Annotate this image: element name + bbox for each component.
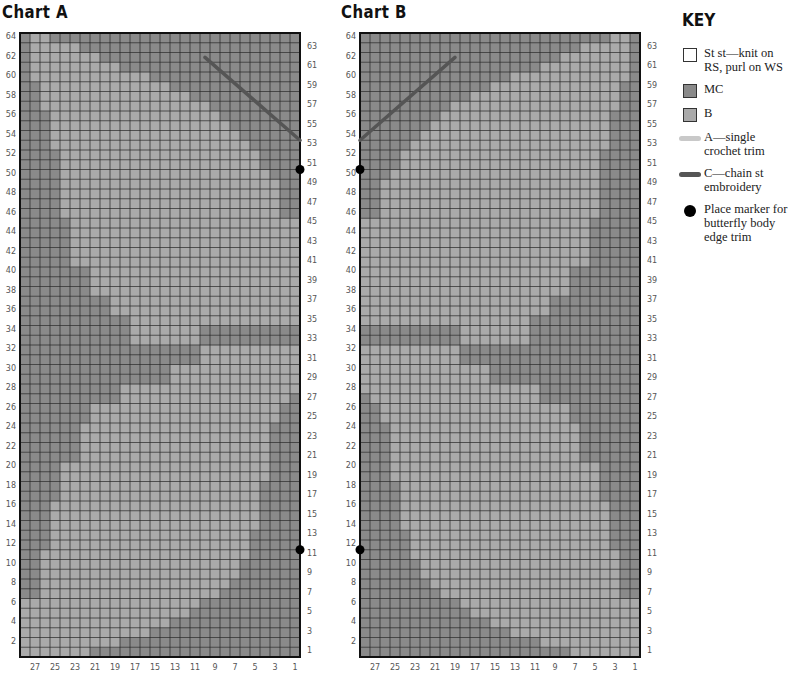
row-label: 61 [647,61,665,70]
column-label: 27 [365,663,385,672]
column-label: 5 [245,663,265,672]
row-label: 58 [342,91,356,100]
place-marker-icon [356,165,365,174]
row-label: 30 [2,364,16,373]
light-line-icon [679,136,701,141]
row-label: 13 [647,529,665,538]
row-label: 51 [307,159,325,168]
row-label: 39 [307,276,325,285]
row-label: 33 [647,334,665,343]
row-label: 47 [647,198,665,207]
row-label: 50 [2,169,16,178]
row-label: 2 [342,637,356,646]
column-label: 1 [625,663,645,672]
row-label: 62 [2,52,16,61]
row-label: 33 [307,334,325,343]
row-label: 10 [2,559,16,568]
row-label: 52 [2,149,16,158]
place-marker-icon [356,545,365,554]
row-label: 11 [307,549,325,558]
black-dot-icon [684,205,696,217]
row-label: 64 [342,32,356,41]
row-label: 48 [2,188,16,197]
row-label: 2 [2,637,16,646]
row-label: 16 [342,500,356,509]
row-label: 35 [307,315,325,324]
chart-a-grid: 6462605856545250484644424038363432302826… [0,0,330,678]
row-label: 54 [2,130,16,139]
row-label: 45 [647,217,665,226]
column-label: 21 [85,663,105,672]
row-label: 18 [2,481,16,490]
row-label: 22 [2,442,16,451]
row-label: 14 [342,520,356,529]
row-label: 56 [2,110,16,119]
row-label: 36 [2,305,16,314]
dark-line-icon [679,172,701,177]
row-label: 39 [647,276,665,285]
row-label: 18 [342,481,356,490]
row-label: 31 [647,354,665,363]
row-label: 38 [342,286,356,295]
column-label: 3 [605,663,625,672]
column-label: 17 [465,663,485,672]
row-label: 27 [647,393,665,402]
row-label: 64 [2,32,16,41]
column-label: 19 [105,663,125,672]
row-label: 53 [647,139,665,148]
row-label: 51 [647,159,665,168]
row-label: 49 [647,178,665,187]
row-label: 50 [342,169,356,178]
column-label: 17 [125,663,145,672]
row-label: 48 [342,188,356,197]
row-label: 3 [647,627,665,636]
row-label: 23 [307,432,325,441]
column-label: 15 [145,663,165,672]
row-label: 29 [307,373,325,382]
row-label: 58 [2,91,16,100]
row-label: 38 [2,286,16,295]
row-label: 35 [647,315,665,324]
place-marker-icon [296,545,305,554]
row-label: 40 [342,266,356,275]
row-label: 21 [307,451,325,460]
row-label: 5 [307,607,325,616]
row-label: 53 [307,139,325,148]
row-label: 41 [307,256,325,265]
row-label: 34 [2,325,16,334]
row-label: 6 [342,598,356,607]
row-label: 14 [2,520,16,529]
row-label: 47 [307,198,325,207]
column-label: 21 [425,663,445,672]
row-label: 9 [307,568,325,577]
row-label: 9 [647,568,665,577]
row-label: 1 [307,646,325,655]
row-label: 42 [342,247,356,256]
row-label: 41 [647,256,665,265]
row-label: 7 [307,588,325,597]
row-label: 15 [307,510,325,519]
row-label: 4 [342,617,356,626]
column-label: 5 [585,663,605,672]
column-label: 3 [265,663,285,672]
column-label: 25 [385,663,405,672]
row-label: 20 [2,461,16,470]
row-label: 24 [2,422,16,431]
row-label: 63 [307,42,325,51]
column-label: 11 [525,663,545,672]
row-label: 43 [647,237,665,246]
row-label: 20 [342,461,356,470]
column-label: 1 [285,663,305,672]
row-label: 56 [342,110,356,119]
key-item-chain-c: C—chain st embroidery [676,166,788,194]
column-label: 7 [565,663,585,672]
row-label: 57 [307,100,325,109]
row-label: 3 [307,627,325,636]
key-item-b: B [676,106,788,122]
white-square-icon [683,48,697,62]
row-label: 8 [2,578,16,587]
row-label: 60 [2,71,16,80]
key-item-marker: Place marker for butterfly body edge tri… [676,202,788,244]
row-label: 17 [647,490,665,499]
column-label: 19 [445,663,465,672]
